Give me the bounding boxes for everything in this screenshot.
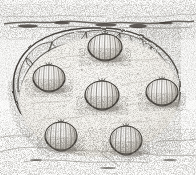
illustration-canvas: Sea urchins in a circular rock pool pen-… (0, 0, 196, 175)
overall-grain-overlay (0, 0, 196, 175)
urchin-pool-drawing (0, 0, 196, 175)
